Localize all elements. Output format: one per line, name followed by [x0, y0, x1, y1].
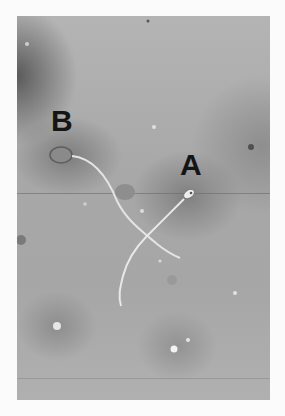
label-a: A — [180, 150, 202, 180]
micrograph-image: B A — [17, 16, 270, 400]
label-b: B — [51, 106, 73, 136]
debris — [17, 20, 254, 353]
sperm-cell-a — [120, 187, 197, 306]
cells-overlay — [17, 16, 270, 400]
sperm-cell-b — [50, 147, 180, 258]
